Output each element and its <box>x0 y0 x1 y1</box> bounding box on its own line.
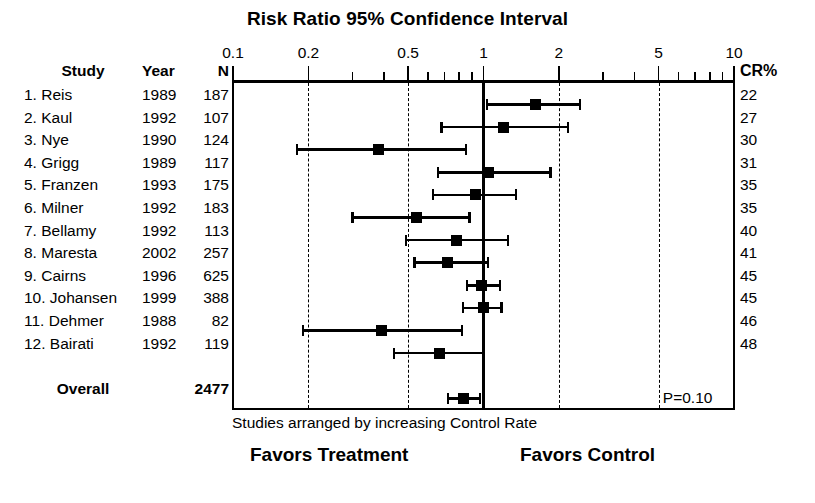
study-n: 124 <box>187 129 229 152</box>
study-2-ci-cap <box>567 122 569 133</box>
control-rate-value: 46 <box>740 310 777 333</box>
overall-n: 2477 <box>187 378 229 401</box>
x-minor-tick <box>722 72 724 80</box>
x-minor-tick <box>471 72 473 80</box>
study-4-ci-cap <box>549 167 551 178</box>
overall-row: Overall 2477 <box>24 378 232 401</box>
study-5-ci-cap <box>515 189 517 200</box>
x-tick-0.2 <box>308 66 310 80</box>
study-4-point-estimate <box>483 167 494 178</box>
study-9-point-estimate <box>476 280 487 291</box>
study-5-point-estimate <box>470 189 481 200</box>
study-1-ci-cap <box>486 99 488 110</box>
study-8-ci-cap <box>487 257 489 268</box>
x-tick-label-10: 10 <box>725 44 742 62</box>
study-year: 1993 <box>142 174 186 197</box>
study-n: 117 <box>187 152 229 175</box>
x-minor-tick <box>634 72 636 80</box>
study-10-ci-cap <box>462 302 464 313</box>
study-8-ci-cap <box>413 257 415 268</box>
study-6-point-estimate <box>411 212 422 223</box>
study-year: 1992 <box>142 220 186 243</box>
study-year: 1992 <box>142 197 186 220</box>
study-name: 9. Cairns <box>24 265 142 288</box>
study-3-ci-cap <box>296 144 298 155</box>
control-rate-value: 35 <box>740 197 777 220</box>
x-tick-10 <box>733 66 735 80</box>
study-name: 6. Milner <box>24 197 142 220</box>
table-row: 6. Milner1992183 <box>24 197 232 220</box>
study-year: 1999 <box>142 287 186 310</box>
study-6-ci-cap <box>468 212 470 223</box>
x-tick-0.1 <box>232 66 234 80</box>
overall-label: Overall <box>24 378 142 401</box>
study-name: 4. Grigg <box>24 152 142 175</box>
study-n: 257 <box>187 242 229 265</box>
study-6-ci-cap <box>351 212 353 223</box>
study-11-ci-cap <box>302 325 304 336</box>
table-row: 2. Kaul1992107 <box>24 107 232 130</box>
study-2-point-estimate <box>498 122 509 133</box>
study-n: 113 <box>187 220 229 243</box>
study-name: 5. Franzen <box>24 174 142 197</box>
x-tick-5 <box>658 66 660 80</box>
overall-point-estimate <box>458 393 469 404</box>
control-rate-value: 35 <box>740 174 777 197</box>
gridline-0.2 <box>308 83 309 408</box>
x-minor-tick <box>694 72 696 80</box>
x-tick-label-1: 1 <box>479 44 488 62</box>
gridline-0.5 <box>408 83 409 408</box>
null-effect-line <box>482 83 485 408</box>
table-row: 10. Johansen1999388 <box>24 287 232 310</box>
study-7-ci-cap <box>405 235 407 246</box>
study-year: 1989 <box>142 152 186 175</box>
x-tick-label-0.1: 0.1 <box>222 44 244 62</box>
study-1-point-estimate <box>530 99 541 110</box>
table-row: 12. Bairati1992119 <box>24 333 232 356</box>
study-n: 388 <box>187 287 229 310</box>
x-minor-tick <box>602 72 604 80</box>
study-7-ci-cap <box>507 235 509 246</box>
chart-title: Risk Ratio 95% Confidence Interval <box>0 8 815 30</box>
study-year: 2002 <box>142 242 186 265</box>
column-header-cr: CR% <box>740 60 777 84</box>
table-row: 9. Cairns1996625 <box>24 265 232 288</box>
study-n: 625 <box>187 265 229 288</box>
study-n: 187 <box>187 84 229 107</box>
control-rate-value: 27 <box>740 107 777 130</box>
study-7-point-estimate <box>451 235 462 246</box>
study-1-ci-cap <box>579 99 581 110</box>
overall-ci-cap <box>447 393 449 404</box>
study-9-ci-cap <box>499 280 501 291</box>
overall-ci-cap <box>479 393 481 404</box>
study-year: 1989 <box>142 84 186 107</box>
x-minor-tick <box>444 72 446 80</box>
study-10-point-estimate <box>478 302 489 313</box>
forest-plot-figure: Risk Ratio 95% Confidence Interval Study… <box>0 0 815 503</box>
table-row: 5. Franzen1993175 <box>24 174 232 197</box>
study-11-point-estimate <box>376 325 387 336</box>
column-header-study: Study <box>24 60 142 83</box>
study-name: 11. Dehmer <box>24 310 142 333</box>
study-year: 1992 <box>142 333 186 356</box>
control-rate-value: 31 <box>740 152 777 175</box>
table-row: 8. Maresta2002257 <box>24 242 232 265</box>
study-name: 3. Nye <box>24 129 142 152</box>
x-minor-tick <box>383 72 385 80</box>
table-row: 3. Nye1990124 <box>24 129 232 152</box>
x-minor-tick <box>458 72 460 80</box>
study-2-ci-cap <box>440 122 442 133</box>
study-4-ci-line <box>438 171 550 174</box>
study-n: 107 <box>187 107 229 130</box>
favors-control-label: Favors Control <box>520 444 655 466</box>
table-row: 4. Grigg1989117 <box>24 152 232 175</box>
x-minor-tick <box>352 72 354 80</box>
study-name: 2. Kaul <box>24 107 142 130</box>
x-tick-label-0.5: 0.5 <box>397 44 419 62</box>
x-minor-tick <box>709 72 711 80</box>
study-9-ci-cap <box>466 280 468 291</box>
x-tick-0.5 <box>407 66 409 80</box>
study-n: 119 <box>187 333 229 356</box>
study-name: 8. Maresta <box>24 242 142 265</box>
gridline-5 <box>659 83 660 408</box>
